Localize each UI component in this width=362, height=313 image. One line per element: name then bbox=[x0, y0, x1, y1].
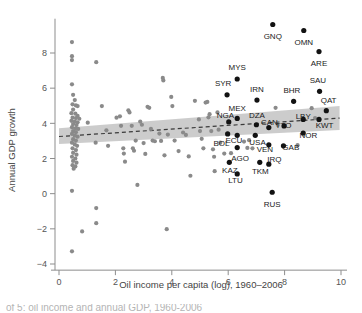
data-point bbox=[222, 151, 226, 155]
data-point bbox=[76, 104, 80, 108]
y-tick-label: −2 bbox=[37, 224, 47, 234]
x-tick-label: 10 bbox=[336, 277, 346, 287]
data-point-highlighted bbox=[235, 116, 240, 121]
data-point bbox=[205, 100, 209, 104]
y-tick-label: 4 bbox=[42, 119, 47, 129]
data-point-highlighted bbox=[254, 98, 259, 103]
country-code-label: BOL bbox=[213, 139, 230, 148]
data-point bbox=[94, 206, 98, 210]
country-code-label: RUS bbox=[264, 200, 281, 209]
data-point bbox=[159, 139, 163, 143]
data-point bbox=[143, 152, 147, 156]
data-point bbox=[106, 144, 110, 148]
data-point bbox=[70, 189, 74, 193]
data-point-highlighted bbox=[235, 145, 240, 150]
x-axis-title: Oil income per capita (log), 1960–2006 bbox=[119, 279, 283, 290]
data-point bbox=[119, 124, 123, 128]
data-point bbox=[140, 123, 144, 127]
country-code-label: NOR bbox=[299, 131, 317, 140]
figure-caption-strip: of 5: oil income and annual GDP, 1960-20… bbox=[0, 304, 362, 313]
y-tick-label: 6 bbox=[42, 83, 47, 93]
y-tick-label: 2 bbox=[42, 154, 47, 164]
data-point-highlighted bbox=[257, 160, 262, 165]
data-point-highlighted bbox=[291, 99, 296, 104]
data-point-highlighted bbox=[226, 119, 231, 124]
data-point-highlighted bbox=[235, 76, 240, 81]
data-point bbox=[132, 149, 136, 153]
country-code-label: ARE bbox=[311, 59, 327, 68]
data-point-highlighted bbox=[270, 22, 275, 27]
country-code-label: GAB bbox=[282, 143, 299, 152]
data-point bbox=[74, 153, 78, 157]
data-point bbox=[134, 138, 138, 142]
data-point bbox=[94, 141, 98, 145]
data-point bbox=[74, 161, 78, 165]
country-code-label: TTO bbox=[276, 121, 292, 130]
data-point bbox=[70, 249, 74, 253]
country-code-label: KAZ bbox=[222, 166, 238, 175]
y-tick-label: 0 bbox=[42, 189, 47, 199]
data-point-highlighted bbox=[317, 89, 322, 94]
data-point bbox=[188, 174, 192, 178]
data-point bbox=[70, 82, 74, 86]
data-point bbox=[104, 128, 108, 132]
data-point bbox=[193, 99, 197, 103]
data-point bbox=[212, 155, 216, 159]
country-code-label: MYS bbox=[229, 63, 246, 72]
data-point bbox=[94, 221, 98, 225]
country-code-label: GNQ bbox=[264, 32, 282, 41]
data-point bbox=[162, 153, 166, 157]
data-point bbox=[100, 104, 104, 108]
data-point bbox=[149, 127, 153, 131]
data-point bbox=[70, 40, 74, 44]
data-point bbox=[213, 169, 217, 173]
country-code-label: TKM bbox=[252, 167, 269, 176]
x-tick-label: 0 bbox=[56, 277, 61, 287]
data-point bbox=[165, 227, 169, 231]
country-code-label: SYR bbox=[215, 79, 232, 88]
data-point bbox=[176, 149, 180, 153]
data-point-highlighted bbox=[301, 28, 306, 33]
data-point bbox=[217, 128, 221, 132]
x-tick-label: 2 bbox=[113, 277, 118, 287]
data-point bbox=[123, 160, 127, 164]
country-code-label: SAU bbox=[310, 76, 327, 85]
y-axis-title: Annual GDP growth bbox=[6, 108, 17, 192]
data-point bbox=[242, 140, 246, 144]
country-code-label: OMN bbox=[294, 38, 313, 47]
data-point bbox=[184, 133, 188, 137]
data-point bbox=[157, 131, 161, 135]
data-point bbox=[310, 106, 314, 110]
country-code-label: AGO bbox=[231, 154, 249, 163]
data-point bbox=[170, 104, 174, 108]
data-point bbox=[198, 129, 202, 133]
data-point bbox=[73, 98, 77, 102]
data-point bbox=[161, 78, 165, 82]
data-point bbox=[201, 146, 205, 150]
data-point bbox=[69, 111, 73, 115]
figure-caption: of 5: oil income and annual GDP, 1960-20… bbox=[6, 304, 202, 313]
country-code-label: QAT bbox=[321, 96, 337, 105]
data-point-highlighted bbox=[270, 190, 275, 195]
country-code-label: BHR bbox=[283, 86, 300, 95]
data-point bbox=[122, 151, 126, 155]
data-point bbox=[207, 112, 211, 116]
data-point bbox=[70, 54, 74, 58]
data-point bbox=[153, 139, 157, 143]
data-point bbox=[147, 106, 151, 110]
data-point bbox=[75, 144, 79, 148]
data-point-highlighted bbox=[253, 133, 258, 138]
country-code-label: IRQ bbox=[267, 155, 281, 164]
data-point-highlighted bbox=[324, 108, 329, 113]
data-point bbox=[86, 121, 90, 125]
data-point-highlighted bbox=[224, 92, 229, 97]
data-point bbox=[70, 58, 74, 62]
country-code-label: IRN bbox=[250, 85, 264, 94]
data-point bbox=[200, 137, 204, 141]
data-point-highlighted bbox=[316, 49, 321, 54]
data-point bbox=[135, 183, 139, 187]
country-code-label: LBY bbox=[296, 112, 312, 121]
data-point bbox=[74, 138, 78, 142]
data-point bbox=[71, 93, 75, 97]
data-point bbox=[118, 114, 122, 118]
